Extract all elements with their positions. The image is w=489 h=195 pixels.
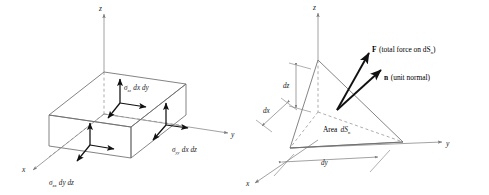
left-box-right-face	[131, 84, 186, 158]
force-tail: )	[433, 45, 436, 54]
sigma-xx-arrow-triad	[77, 123, 114, 161]
label-total-force: F(total force on dSn)	[372, 45, 436, 55]
sigma-yy-product: dx dz	[182, 146, 197, 154]
area-word: Area	[323, 125, 338, 134]
tetrahedron-base-edge	[290, 142, 403, 148]
label-sigma-zz: σzzdx dy	[124, 84, 149, 93]
area-subscript: n	[348, 130, 351, 135]
dy-label: dy	[321, 159, 329, 167]
label-sigma-xx: σxxdy dz	[49, 179, 74, 188]
dx-tick-upper	[281, 98, 297, 110]
dy-dimension-line	[282, 157, 378, 162]
right-axis-label-z: z	[312, 3, 316, 12]
normal-text: (unit normal)	[391, 73, 431, 82]
sigma-xx-shear-arrow-y	[90, 145, 114, 149]
sigma-xx-product: dy dz	[59, 179, 74, 187]
sigma-yy-arrow-triad	[153, 103, 188, 140]
dz-label: dz	[283, 82, 290, 90]
sigma-yy-subscript: yy	[175, 150, 181, 155]
left-axis-label-x: x	[21, 165, 26, 174]
right-axis-label-x: x	[245, 179, 250, 188]
figure-svg: z y x σzzdx dy σxxdy dz σyydx dz	[0, 0, 489, 195]
force-vector-arrow	[337, 53, 369, 110]
normal-vector-arrow	[337, 70, 381, 110]
label-unit-normal: n(unit normal)	[384, 73, 430, 82]
svg-text:AreadSn: AreadSn	[323, 125, 351, 135]
right-panel: z y x dz dx dy F(total force on dSn) n(u…	[245, 3, 450, 188]
svg-text:σyydx dz: σyydx dz	[172, 146, 197, 155]
dx-tick-lower	[256, 120, 272, 132]
left-axis-label-y: y	[230, 130, 235, 139]
sigma-xx-normal-arrow	[77, 145, 90, 161]
svg-text:n(unit normal): n(unit normal)	[384, 73, 430, 82]
left-panel: z y x σzzdx dy σxxdy dz σyydx dz	[21, 4, 235, 188]
label-area: AreadSn	[323, 125, 351, 135]
sigma-zz-product: dx dy	[133, 84, 149, 92]
force-text: (total force on dS	[379, 45, 431, 54]
dy-tick-left	[274, 154, 294, 176]
left-axis-label-z: z	[98, 4, 102, 13]
svg-text:σzzdx dy: σzzdx dy	[124, 84, 149, 93]
force-symbol: F	[372, 45, 377, 54]
sigma-xx-subscript: xx	[52, 183, 57, 188]
sigma-zz-shear-arrow-y	[120, 103, 146, 107]
svg-text:σxxdy dz: σxxdy dz	[49, 179, 74, 188]
label-sigma-yy: σyydx dz	[172, 146, 197, 155]
dy-tick-right	[370, 150, 390, 172]
dz-tick-bottom	[289, 106, 311, 112]
svg-text:F(total force on dSn): F(total force on dSn)	[372, 45, 436, 55]
figure-container: z y x σzzdx dy σxxdy dz σyydx dz	[0, 0, 489, 195]
right-axis-label-y: y	[445, 139, 450, 148]
dz-tick-top	[289, 63, 311, 69]
dx-label: dx	[263, 107, 271, 115]
sigma-zz-subscript: zz	[127, 88, 132, 93]
normal-symbol: n	[384, 73, 388, 82]
